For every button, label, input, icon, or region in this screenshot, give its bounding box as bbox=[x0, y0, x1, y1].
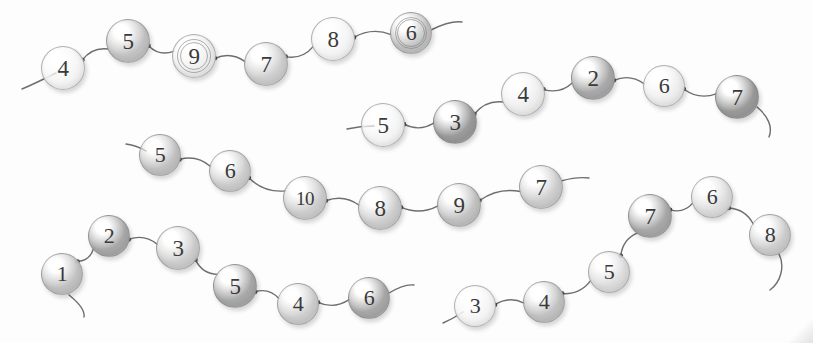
chain-4-connector-4 bbox=[255, 291, 279, 299]
chain-5-connector-2 bbox=[562, 280, 591, 293]
chain-2-bead-label-4: 2 bbox=[588, 67, 599, 90]
chain-3-connector-2 bbox=[249, 178, 285, 191]
chain-5-connector-4 bbox=[670, 203, 693, 211]
chain-3-bead-5[interactable]: 5 bbox=[139, 134, 181, 176]
chain-2-connector-3 bbox=[543, 83, 572, 91]
chain-3-bead-label-1: 5 bbox=[155, 144, 166, 166]
chain-1-bead-6[interactable]: 6 bbox=[390, 12, 432, 54]
chain-3-end-tail bbox=[561, 178, 589, 181]
chain-4-bead-2[interactable]: 2 bbox=[88, 215, 130, 257]
chain-2-bead-4[interactable]: 4 bbox=[501, 72, 545, 116]
chain-5-connector-1 bbox=[495, 300, 524, 305]
chain-4-connector-1 bbox=[78, 249, 94, 262]
chain-1-bead-label-3: 9 bbox=[189, 45, 200, 68]
chain-4-connector-3 bbox=[195, 260, 217, 275]
chain-3-bead-label-6: 7 bbox=[536, 176, 547, 199]
chain-4-bead-label-6: 6 bbox=[364, 287, 375, 309]
chain-4-connector-5 bbox=[318, 300, 349, 306]
chain-5-bead-8[interactable]: 8 bbox=[749, 214, 791, 256]
chain-1-bead-8[interactable]: 8 bbox=[311, 17, 355, 61]
chain-1-connector-1 bbox=[82, 49, 108, 60]
chain-2-connector-2 bbox=[474, 102, 503, 114]
chain-2-connector-1 bbox=[404, 123, 434, 128]
chain-4-bead-1[interactable]: 1 bbox=[41, 253, 83, 295]
chain-4-end-tail bbox=[389, 285, 414, 293]
chain-4-bead-4[interactable]: 4 bbox=[277, 283, 319, 325]
chain-1-connector-5 bbox=[354, 31, 391, 37]
chain-3-connector-1 bbox=[179, 158, 210, 166]
chain-4-bead-label-2: 2 bbox=[104, 225, 115, 247]
chain-4-bead-6[interactable]: 6 bbox=[348, 277, 390, 319]
chain-2-end-tail bbox=[757, 107, 770, 137]
chain-1-bead-label-2: 5 bbox=[123, 30, 134, 53]
chain-1-bead-label-1: 4 bbox=[58, 57, 69, 80]
chain-2-bead-3[interactable]: 3 bbox=[433, 100, 477, 144]
chain-4-start-tail bbox=[69, 295, 84, 317]
chain-1-bead-7[interactable]: 7 bbox=[244, 42, 288, 86]
chain-2-bead-7[interactable]: 7 bbox=[715, 75, 759, 119]
chain-4-connector-2 bbox=[129, 237, 158, 244]
chain-1-bead-label-6: 6 bbox=[406, 22, 417, 44]
chain-2-bead-6[interactable]: 6 bbox=[643, 65, 685, 107]
chain-3-connector-4 bbox=[401, 206, 438, 211]
chain-3-bead-6[interactable]: 6 bbox=[209, 150, 251, 192]
chain-5-bead-4[interactable]: 4 bbox=[523, 281, 565, 323]
chain-3-bead-label-4: 8 bbox=[375, 197, 386, 220]
chain-3-bead-8[interactable]: 8 bbox=[358, 186, 402, 230]
chain-5-bead-6[interactable]: 6 bbox=[691, 176, 733, 218]
chain-3-bead-label-2: 6 bbox=[225, 160, 236, 182]
chain-5-end-tail bbox=[770, 254, 782, 290]
chain-3-connector-5 bbox=[480, 190, 521, 200]
chain-4-bead-label-1: 1 bbox=[57, 263, 68, 285]
chain-5-bead-label-2: 4 bbox=[539, 291, 550, 313]
chain-2-connector-5 bbox=[684, 89, 716, 96]
chain-4-bead-5[interactable]: 5 bbox=[213, 264, 257, 308]
chain-1-bead-4[interactable]: 4 bbox=[41, 46, 85, 90]
chain-3-connector-3 bbox=[326, 198, 359, 205]
chain-2-bead-2[interactable]: 2 bbox=[571, 56, 615, 100]
chain-1-bead-5[interactable]: 5 bbox=[106, 19, 150, 63]
chain-5-bead-label-6: 8 bbox=[765, 224, 776, 246]
diagram-canvas: 4597865342675610897123546345768 bbox=[0, 0, 813, 343]
chain-3-bead-label-3: 10 bbox=[296, 189, 314, 208]
chain-4-bead-label-3: 3 bbox=[173, 237, 184, 260]
chain-5-bead-7[interactable]: 7 bbox=[628, 194, 672, 238]
chain-1-connector-2 bbox=[148, 46, 173, 53]
chain-5-bead-label-5: 6 bbox=[707, 186, 718, 208]
chain-2-bead-label-5: 6 bbox=[659, 75, 670, 97]
chain-5-bead-3[interactable]: 3 bbox=[454, 285, 496, 327]
chain-3-bead-label-5: 9 bbox=[454, 194, 465, 217]
chain-2-bead-label-6: 7 bbox=[732, 86, 743, 109]
chain-2-bead-5[interactable]: 5 bbox=[361, 103, 405, 147]
chain-4-bead-3[interactable]: 3 bbox=[156, 226, 200, 270]
chain-1-bead-9[interactable]: 9 bbox=[172, 34, 216, 78]
chain-3-bead-9[interactable]: 9 bbox=[437, 183, 481, 227]
chain-1-bead-label-5: 8 bbox=[328, 28, 339, 51]
chain-5-connector-3 bbox=[621, 233, 638, 256]
chain-1-bead-label-4: 7 bbox=[261, 53, 272, 76]
chain-4-bead-label-5: 4 bbox=[293, 293, 304, 315]
chain-5-bead-label-1: 3 bbox=[470, 295, 481, 317]
chain-2-bead-label-2: 3 bbox=[450, 111, 461, 134]
chain-3-bead-7[interactable]: 7 bbox=[519, 165, 563, 209]
chain-1-connector-3 bbox=[215, 56, 245, 62]
chain-5-connector-5 bbox=[729, 208, 754, 224]
chain-4-bead-label-4: 5 bbox=[230, 275, 241, 298]
chain-5-bead-label-4: 7 bbox=[645, 205, 656, 228]
chain-2-bead-label-1: 5 bbox=[378, 114, 389, 137]
chain-1-connector-4 bbox=[286, 46, 314, 57]
chain-3-bead-10[interactable]: 10 bbox=[283, 176, 327, 220]
chain-5-bead-label-3: 5 bbox=[604, 261, 615, 283]
chain-2-connector-4 bbox=[614, 78, 644, 84]
chain-1-end-tail bbox=[431, 22, 462, 30]
chain-5-bead-5[interactable]: 5 bbox=[588, 251, 630, 293]
chain-2-bead-label-3: 4 bbox=[518, 83, 529, 106]
